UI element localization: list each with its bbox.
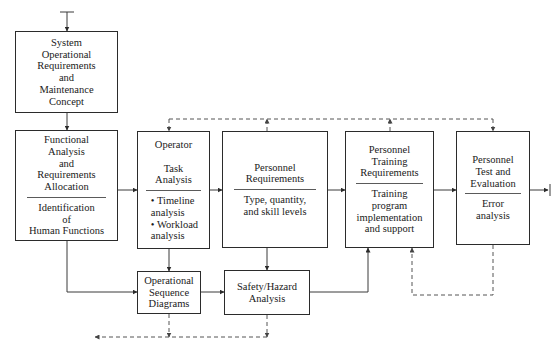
node-safety-hazard-analysis[interactable]: Safety/Hazard Analysis <box>224 270 310 315</box>
node-title: Safety/Hazard Analysis <box>237 281 297 305</box>
node-title: Operational Sequence Diagrams <box>144 275 194 310</box>
edge-feedback-test-to-training <box>412 245 493 295</box>
node-title: Operator Task Analysis <box>155 139 192 186</box>
node-divider <box>27 197 106 198</box>
node-bullet-list: • Timeline analysis • Workload analysis <box>149 195 198 242</box>
node-subtitle: Identification of Human Functions <box>29 202 104 237</box>
node-divider <box>146 190 201 191</box>
edge-functional-to-operational-sequence <box>67 241 137 292</box>
node-subtitle: Training program implementation and supp… <box>357 188 423 235</box>
node-functional-analysis[interactable]: Functional Analysis and Requirements All… <box>15 130 118 241</box>
node-personnel-requirements[interactable]: Personnel Requirements Type, quantity, a… <box>222 131 328 248</box>
node-subtitle: Error analysis <box>476 198 510 222</box>
node-personnel-training-requirements[interactable]: Personnel Training Requirements Training… <box>345 131 434 248</box>
node-subtitle: Type, quantity, and skill levels <box>244 194 307 218</box>
diagram-canvas: System Operational Requirements and Main… <box>0 0 558 352</box>
node-divider <box>465 193 521 194</box>
node-personnel-test-and-evaluation[interactable]: Personnel Test and Evaluation Error anal… <box>456 131 530 245</box>
node-title: System Operational Requirements and Main… <box>37 37 95 108</box>
node-operator-task-analysis[interactable]: Operator Task Analysis • Timeline analys… <box>137 131 210 249</box>
edge-safety-to-training <box>310 248 368 292</box>
node-title: Functional Analysis and Requirements All… <box>37 134 95 193</box>
node-title: Personnel Training Requirements <box>360 144 418 179</box>
node-title: Personnel Requirements <box>246 162 304 186</box>
node-system-operational-requirements[interactable]: System Operational Requirements and Main… <box>15 31 118 113</box>
node-operational-sequence-diagrams[interactable]: Operational Sequence Diagrams <box>137 271 201 314</box>
node-title: Personnel Test and Evaluation <box>470 154 516 189</box>
node-divider <box>356 183 424 184</box>
node-divider <box>234 189 315 190</box>
